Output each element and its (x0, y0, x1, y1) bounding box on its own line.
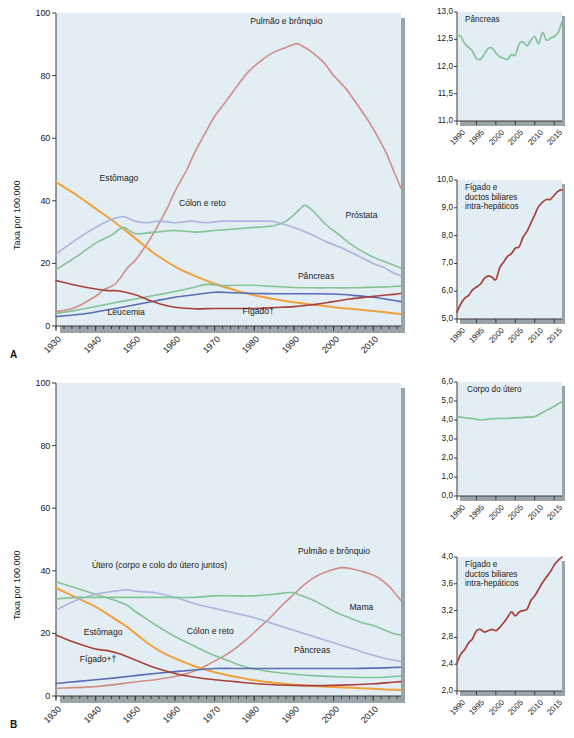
panel-a: Taxa por 100.000 A 020406080100193019401… (0, 0, 420, 370)
inset-y-tick-label: 10,0 (427, 175, 453, 184)
panel-y-tick-label: 40 (22, 566, 50, 576)
series-label: Cólon e reto (187, 626, 234, 636)
panel-y-tick-label: 100 (22, 378, 50, 388)
inset-y-tick-label: 13,0 (427, 7, 453, 16)
series-label: Próstata (345, 210, 377, 220)
panel-y-tick-label: 100 (22, 8, 50, 18)
series-label-uterus: Útero (corpo e colo do útero juntos) (92, 560, 227, 570)
panel-y-tick-label: 80 (22, 71, 50, 81)
series-label: Mama (349, 602, 373, 612)
inset-y-tick-label: 3,6 (427, 579, 453, 588)
inset-liver-female: Fígado e ductos biliares intra-hepáticos… (410, 545, 574, 738)
inset-y-tick-label: 11,5 (427, 89, 453, 98)
inset-y-tick-label: 9,0 (427, 203, 453, 212)
inset-y-tick-label: 2,8 (427, 632, 453, 641)
series-label: Estômago (100, 173, 139, 183)
inset-series-line (457, 402, 562, 420)
panel-y-tick-label: 20 (22, 258, 50, 268)
series-label: Pulmão e brônquio (298, 546, 370, 556)
inset-y-tick-label: 11,0 (427, 116, 453, 125)
panel-a-plot (0, 0, 420, 370)
inset-y-tick-label: 12,5 (427, 34, 453, 43)
inset-series-line (457, 190, 562, 312)
inset-y-tick-label: 1,0 (427, 472, 453, 481)
inset-y-tick-label: 4,0 (427, 552, 453, 561)
series-label: Pulmão e brônquio (250, 16, 322, 26)
inset-y-tick-label: 5,0 (427, 396, 453, 405)
inset-y-tick-label: 2,4 (427, 659, 453, 668)
panel-y-tick-label: 0 (22, 321, 50, 331)
series-label: Leucemia (108, 307, 145, 317)
panel-y-tick-label: 20 (22, 628, 50, 638)
inset-y-tick-label: 6,0 (427, 377, 453, 386)
inset-series-line (457, 22, 562, 60)
inset-uterus-corpus: Corpo do útero 0,01,02,03,04,05,06,01990… (410, 370, 574, 540)
panel-b: Taxa por 100.000 B 020406080100193019401… (0, 370, 420, 738)
inset-y-tick-label: 0,0 (427, 491, 453, 500)
series-label: Pâncreas (294, 645, 330, 655)
series-label: Estômago (84, 627, 123, 637)
inset-series-line (457, 557, 562, 663)
inset-y-tick-label: 5,0 (427, 314, 453, 323)
panel-y-tick-label: 40 (22, 196, 50, 206)
inset-y-tick-label: 6,0 (427, 286, 453, 295)
inset-pancreas-male: Pâncreas 11,011,512,012,513,019901995200… (410, 0, 574, 165)
inset-y-tick-label: 4,0 (427, 415, 453, 424)
panel-y-tick-label: 60 (22, 133, 50, 143)
panel-y-tick-label: 0 (22, 691, 50, 701)
series-line (56, 216, 401, 275)
panel-y-tick-label: 80 (22, 441, 50, 451)
inset-y-tick-label: 3,2 (427, 606, 453, 615)
series-label: Pâncreas (298, 271, 334, 281)
inset-liver-male: Fígado e ductos biliares intra-hepáticos… (410, 168, 574, 368)
inset-y-tick-label: 2,0 (427, 686, 453, 695)
series-label: Fígado+† (80, 654, 117, 664)
inset-y-tick-label: 8,0 (427, 231, 453, 240)
inset-y-tick-label: 7,0 (427, 258, 453, 267)
inset-y-tick-label: 3,0 (427, 434, 453, 443)
panel-y-tick-label: 60 (22, 503, 50, 513)
inset-y-tick-label: 12,0 (427, 62, 453, 71)
inset-y-tick-label: 2,0 (427, 453, 453, 462)
series-label: Cólon e reto (179, 198, 226, 208)
series-label: Fígado† (242, 306, 274, 316)
